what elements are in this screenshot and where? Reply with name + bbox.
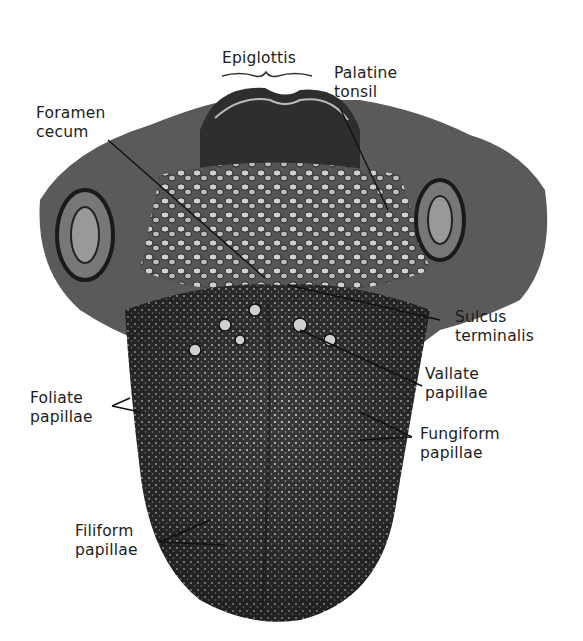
label-foramen-cecum: Foramen cecum [36, 104, 106, 142]
label-vallate-papillae: Vallate papillae [425, 365, 488, 403]
label-palatine-tonsil: Palatine tonsil [334, 64, 397, 102]
tongue-diagram: Epiglottis Palatine tonsil Foramen cecum… [0, 0, 583, 641]
epiglottis-brace [222, 72, 312, 77]
label-fungiform-papillae: Fungiform papillae [420, 425, 500, 463]
label-sulcus-terminalis: Sulcus terminalis [455, 308, 534, 346]
label-epiglottis: Epiglottis [222, 49, 296, 68]
root-of-tongue [140, 163, 430, 291]
label-filiform-papillae: Filiform papillae [75, 522, 138, 560]
label-foliate-papillae: Foliate papillae [30, 389, 93, 427]
